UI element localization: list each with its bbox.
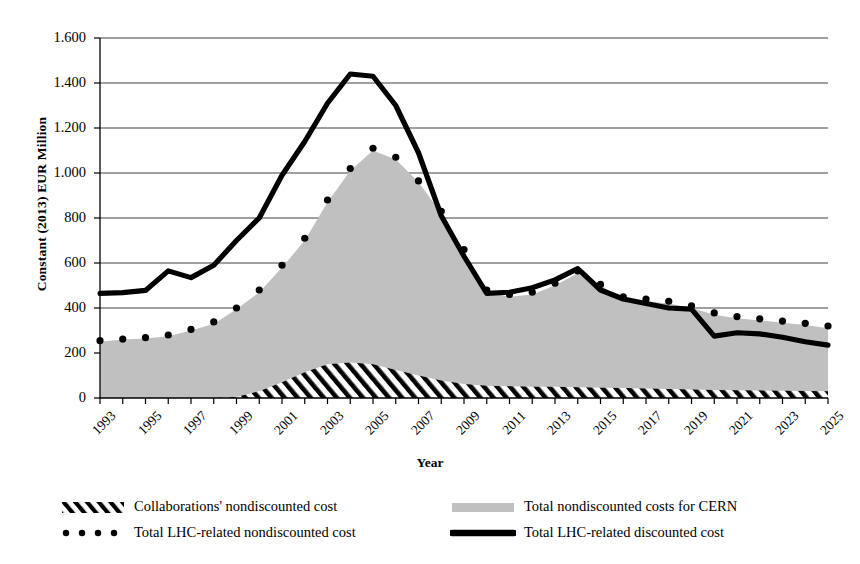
y-tick-label: 400 xyxy=(26,300,86,314)
legend-label-lhc-discounted: Total LHC-related discounted cost xyxy=(524,524,724,541)
filled-area-swatch-icon xyxy=(450,500,516,513)
chart-figure: Constant (2013) EUR Million 020040060080… xyxy=(0,0,860,564)
chart-plot-area: Constant (2013) EUR Million 020040060080… xyxy=(0,0,860,490)
chart-legend: Collaborations' nondiscounted cost Total… xyxy=(0,492,860,564)
series-total-nondiscounted-cern xyxy=(100,151,828,399)
legend-label-lhc-nondiscounted: Total LHC-related nondiscounted cost xyxy=(134,524,356,541)
dotted-line-swatch-icon xyxy=(60,526,126,539)
legend-item-collaborations: Collaborations' nondiscounted cost xyxy=(60,498,337,515)
y-tick-label: 1.000 xyxy=(26,165,86,179)
thick-line-swatch-icon xyxy=(450,526,516,539)
y-tick-label: 1.600 xyxy=(26,30,86,44)
y-tick-label: 200 xyxy=(26,345,86,359)
y-axis-title: Constant (2013) EUR Million xyxy=(34,74,50,334)
legend-label-collaborations: Collaborations' nondiscounted cost xyxy=(134,498,337,515)
legend-item-cern-nondiscounted: Total nondiscounted costs for CERN xyxy=(450,498,737,515)
y-tick-label: 600 xyxy=(26,255,86,269)
x-axis-title: Year xyxy=(0,455,860,471)
y-tick-label: 0 xyxy=(26,390,86,404)
legend-item-lhc-discounted: Total LHC-related discounted cost xyxy=(450,524,724,541)
legend-item-lhc-nondiscounted: Total LHC-related nondiscounted cost xyxy=(60,524,356,541)
y-tick-label: 1.400 xyxy=(26,75,86,89)
y-tick-label: 1.200 xyxy=(26,120,86,134)
legend-label-cern-nondiscounted: Total nondiscounted costs for CERN xyxy=(524,498,737,515)
y-tick-label: 800 xyxy=(26,210,86,224)
hatched-swatch-icon xyxy=(60,500,126,513)
